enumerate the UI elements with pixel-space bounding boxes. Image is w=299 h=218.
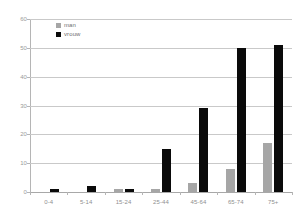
bar-man bbox=[188, 183, 197, 192]
x-axis-tick-label: 65-74 bbox=[217, 199, 254, 205]
bar-vrouw bbox=[274, 45, 283, 192]
legend-item-vrouw: vrouw bbox=[56, 31, 81, 37]
bar-group bbox=[255, 19, 292, 192]
y-axis-tick-label: 20 bbox=[3, 131, 27, 137]
legend-swatch-icon bbox=[56, 32, 61, 37]
bar-vrouw bbox=[237, 48, 246, 192]
bar-man bbox=[151, 189, 160, 192]
bar-vrouw bbox=[162, 149, 171, 192]
bar-group bbox=[105, 19, 142, 192]
bar-group bbox=[142, 19, 179, 192]
x-axis-tick-mark bbox=[255, 192, 256, 195]
x-axis-tick-label: 25-44 bbox=[142, 199, 179, 205]
y-axis-tick-label: 60 bbox=[3, 16, 27, 22]
legend: manvrouw bbox=[56, 22, 81, 37]
legend-label: vrouw bbox=[64, 31, 81, 37]
x-axis-tick-label: 45-64 bbox=[180, 199, 217, 205]
bar-groups bbox=[30, 19, 292, 192]
legend-label: man bbox=[64, 22, 76, 28]
bar-vrouw bbox=[125, 189, 134, 192]
bar-group bbox=[217, 19, 254, 192]
x-axis-tick-label: 5-14 bbox=[67, 199, 104, 205]
x-axis-tick-label: 0-4 bbox=[30, 199, 67, 205]
bar-vrouw bbox=[87, 186, 96, 192]
x-axis-tick-mark bbox=[30, 192, 31, 195]
bar-man bbox=[263, 143, 272, 192]
legend-item-man: man bbox=[56, 22, 81, 28]
plot-area bbox=[30, 19, 292, 192]
bar-group bbox=[67, 19, 104, 192]
x-axis-tick-mark bbox=[292, 192, 293, 195]
x-axis-tick-mark bbox=[67, 192, 68, 195]
bar-vrouw bbox=[50, 189, 59, 192]
y-axis-tick-label: 40 bbox=[3, 74, 27, 80]
bar-man bbox=[226, 169, 235, 192]
bar-group bbox=[30, 19, 67, 192]
bar-vrouw bbox=[199, 108, 208, 192]
bar-group bbox=[180, 19, 217, 192]
y-axis-tick-label: 50 bbox=[3, 45, 27, 51]
x-axis-tick-label: 75+ bbox=[255, 199, 292, 205]
x-axis-tick-mark bbox=[142, 192, 143, 195]
x-axis-tick-mark bbox=[105, 192, 106, 195]
x-axis-tick-labels: 0-45-1415-2425-4445-6465-7475+ bbox=[30, 199, 292, 205]
gridline bbox=[30, 192, 292, 193]
y-axis-tick-label: 10 bbox=[3, 160, 27, 166]
bar-chart: 0102030405060 0-45-1415-2425-4445-6465-7… bbox=[0, 0, 299, 218]
x-axis-tick-mark bbox=[180, 192, 181, 195]
bar-man bbox=[114, 189, 123, 192]
x-axis-tick-label: 15-24 bbox=[105, 199, 142, 205]
legend-swatch-icon bbox=[56, 23, 61, 28]
y-axis-tick-label: 30 bbox=[3, 103, 27, 109]
y-axis-tick-label: 0 bbox=[3, 189, 27, 195]
x-axis-tick-mark bbox=[217, 192, 218, 195]
